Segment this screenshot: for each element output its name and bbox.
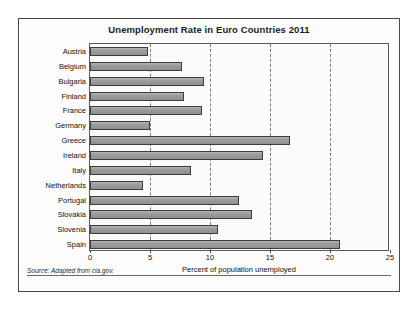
y-axis-label-austria: Austria — [63, 47, 86, 56]
x-tick-label-20: 20 — [326, 253, 334, 262]
figure-frame: Unemployment Rate in Euro Countries 2011… — [18, 18, 400, 292]
y-axis-label-slovenia: Slovenia — [57, 225, 86, 234]
bar-row: Belgium — [90, 62, 390, 71]
bar-austria — [90, 47, 148, 56]
x-tick-label-10: 10 — [206, 253, 214, 262]
bar-row: France — [90, 106, 390, 115]
bar-row: Germany — [90, 121, 390, 130]
source-divider — [27, 275, 391, 276]
x-tick-label-0: 0 — [88, 253, 92, 262]
y-axis-label-finland: Finland — [61, 92, 86, 101]
bar-finland — [90, 92, 184, 101]
bar-row: Finland — [90, 92, 390, 101]
bar-row: Italy — [90, 166, 390, 175]
bar-italy — [90, 166, 191, 175]
bar-slovakia — [90, 210, 252, 219]
bar-bulgaria — [90, 77, 204, 86]
y-axis-label-germany: Germany — [55, 121, 86, 130]
chart-title: Unemployment Rate in Euro Countries 2011 — [19, 24, 399, 35]
bars-layer: AustriaBelgiumBulgariaFinlandFranceGerma… — [90, 44, 388, 250]
y-axis-label-portugal: Portugal — [58, 196, 86, 205]
y-axis-label-greece: Greece — [61, 136, 86, 145]
y-axis-label-france: France — [63, 106, 86, 115]
source-note: Source: Adapted from cia.gov. — [27, 267, 114, 274]
bar-ireland — [90, 151, 263, 160]
bar-row: Spain — [90, 240, 390, 249]
x-tick-label-15: 15 — [266, 253, 274, 262]
bar-row: Bulgaria — [90, 77, 390, 86]
bar-row: Portugal — [90, 196, 390, 205]
bar-greece — [90, 136, 290, 145]
bar-spain — [90, 240, 340, 249]
bar-netherlands — [90, 181, 143, 190]
y-axis-label-ireland: Ireland — [63, 151, 86, 160]
bar-row: Greece — [90, 136, 390, 145]
bar-portugal — [90, 196, 239, 205]
x-axis-title: Percent of population unemployed — [89, 265, 389, 274]
y-axis-label-bulgaria: Bulgaria — [58, 77, 86, 86]
y-axis-label-italy: Italy — [72, 166, 86, 175]
bar-belgium — [90, 62, 182, 71]
x-tick-label-5: 5 — [148, 253, 152, 262]
y-axis-label-netherlands: Netherlands — [46, 181, 86, 190]
bar-row: Ireland — [90, 151, 390, 160]
x-tick-label-25: 25 — [386, 253, 394, 262]
bar-germany — [90, 121, 150, 130]
bar-france — [90, 106, 202, 115]
bar-row: Netherlands — [90, 181, 390, 190]
y-axis-label-spain: Spain — [67, 240, 86, 249]
y-axis-label-belgium: Belgium — [59, 62, 86, 71]
bar-slovenia — [90, 225, 218, 234]
bar-row: Slovenia — [90, 225, 390, 234]
bar-row: Slovakia — [90, 210, 390, 219]
bar-row: Austria — [90, 47, 390, 56]
y-axis-label-slovakia: Slovakia — [58, 210, 86, 219]
plot-area: AustriaBelgiumBulgariaFinlandFranceGerma… — [89, 43, 389, 251]
